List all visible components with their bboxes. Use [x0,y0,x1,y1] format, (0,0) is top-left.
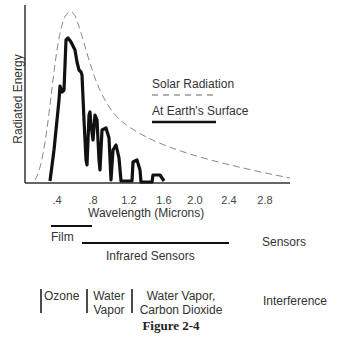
solar-radiation-curve [35,12,290,180]
earth-surface-curve [50,38,164,182]
figure-caption: Figure 2-4 [0,318,342,334]
water-vapor-line2: Vapor [90,303,128,317]
wv-co2-label: Water Vapor, Carbon Dioxide [135,289,227,317]
x-tick-0.4: .4 [52,194,61,206]
sensors-row-label: Sensors [262,235,306,249]
x-tick-2.4: 2.4 [221,194,236,206]
x-axis-label: Wavelength (Microns) [88,206,204,220]
interference-row-label: Interference [263,294,327,308]
y-axis-label: Radiated Energy [11,49,25,149]
x-tick-2.8: 2.8 [257,194,272,206]
infrared-label: Infrared Sensors [106,249,195,263]
x-tick-1.2: 1.2 [121,194,136,206]
legend-earth-surface: At Earth's Surface [152,104,248,118]
film-label: Film [51,230,74,244]
x-tick-1.6: 1.6 [156,194,171,206]
x-tick-0.8: .8 [88,194,97,206]
wv-co2-line2: Carbon Dioxide [135,303,227,317]
ozone-label: Ozone [44,289,79,303]
water-vapor-label: Water Vapor [90,289,128,317]
wv-co2-line1: Water Vapor, [135,289,227,303]
legend-solar-radiation: Solar Radiation [152,77,234,91]
water-vapor-line1: Water [90,289,128,303]
x-tick-2.0: 2.0 [187,194,202,206]
